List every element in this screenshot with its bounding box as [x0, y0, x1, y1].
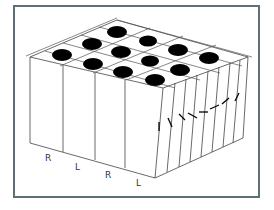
label-r-1: R [45, 153, 51, 163]
cortical-column-diagram: R L R L [0, 0, 274, 210]
label-l-2: L [136, 178, 141, 188]
label-l-1: L [75, 162, 80, 172]
orientation-slab-dividers [167, 60, 240, 172]
label-r-2: R [105, 170, 111, 180]
ocular-dominance-dividers [63, 65, 125, 168]
